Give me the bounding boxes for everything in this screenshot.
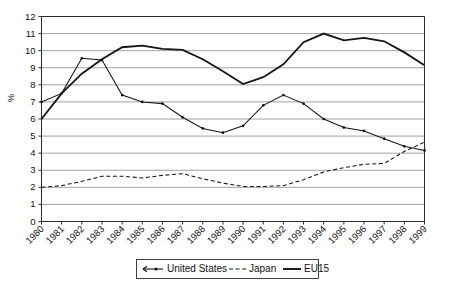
series-line-united-states (42, 58, 425, 150)
x-axis-tick-labels: 1980198119821983198419851986198719881989… (23, 222, 429, 246)
x-axis-tick-label: 1981 (43, 223, 66, 246)
x-axis-tick-label: 1985 (124, 223, 147, 246)
x-axis-tick-label: 1992 (265, 223, 288, 246)
legend: United States Japan EU15 (137, 260, 330, 279)
y-axis-tick-label: 8 (30, 79, 35, 90)
x-axis-tick-label: 1994 (305, 223, 328, 246)
x-axis-tick-label: 1989 (205, 223, 228, 246)
x-axis-tick-label: 1983 (84, 223, 107, 246)
x-axis-tick-label: 1998 (386, 223, 409, 246)
data-point-marker (201, 127, 204, 130)
data-point-marker (322, 118, 325, 121)
x-axis-tick-label: 1995 (326, 223, 349, 246)
data-point-marker (242, 124, 245, 127)
x-axis-tick-label: 1984 (104, 223, 127, 246)
data-point-marker (161, 102, 164, 105)
y-axis-tick-label: 2 (30, 181, 35, 192)
y-axis-tick-label: 1 (30, 198, 35, 209)
data-point-marker (302, 102, 305, 105)
x-axis-tick-label: 1980 (23, 223, 46, 246)
y-axis-title: % (5, 93, 16, 102)
gridlines (42, 34, 425, 205)
x-axis-tick-label: 1996 (346, 223, 369, 246)
x-axis-tick-label: 1993 (285, 223, 308, 246)
legend-label-united-states: United States (167, 263, 227, 274)
legend-marker-dot-us (155, 268, 158, 271)
series-markers-united-states (40, 57, 426, 152)
y-axis-tick-label: 11 (26, 28, 36, 39)
data-point-marker (60, 92, 63, 95)
y-axis-tick-label: 12 (25, 11, 36, 22)
data-point-marker (363, 130, 366, 133)
y-axis-tick-label: 9 (30, 62, 35, 73)
data-point-marker (101, 59, 104, 62)
series-line-japan (42, 142, 425, 187)
y-axis-tick-label: 6 (30, 113, 35, 124)
data-point-marker (40, 101, 43, 104)
legend-label-eu15: EU15 (304, 263, 329, 274)
data-point-marker (403, 145, 406, 148)
y-axis-tick-label: 7 (30, 96, 35, 107)
data-point-marker (222, 131, 225, 134)
x-axis-tick-label: 1990 (225, 223, 248, 246)
y-axis-tick-label: 4 (30, 147, 35, 158)
y-axis-tick-labels: 0123456789101112 (25, 11, 42, 227)
unemployment-rate-line-chart: 0123456789101112 19801981198219831984198… (0, 0, 449, 291)
data-point-marker (121, 94, 124, 97)
data-point-marker (141, 101, 144, 104)
data-point-marker (262, 104, 265, 107)
x-axis-tick-label: 1999 (406, 223, 429, 246)
y-axis-tick-label: 10 (25, 45, 36, 56)
x-axis-tick-label: 1991 (245, 223, 268, 246)
x-axis-tick-label: 1987 (164, 223, 187, 246)
series-line-eu15 (42, 34, 425, 119)
chart-canvas: 0123456789101112 19801981198219831984198… (0, 0, 449, 291)
data-point-marker (80, 57, 83, 60)
data-point-marker (181, 116, 184, 119)
y-axis-tick-label: 3 (30, 164, 35, 175)
y-axis-tick-label: 5 (30, 130, 35, 141)
x-axis-tick-label: 1997 (366, 223, 389, 246)
y-axis-tick-label: 0 (30, 216, 35, 227)
data-point-marker (423, 149, 426, 152)
x-axis-tick-label: 1986 (144, 223, 167, 246)
data-point-marker (343, 126, 346, 129)
data-point-marker (282, 94, 285, 97)
x-axis-tick-label: 1988 (184, 223, 207, 246)
data-point-marker (383, 137, 386, 140)
x-axis-tick-label: 1982 (64, 223, 87, 246)
legend-label-japan: Japan (249, 263, 276, 274)
